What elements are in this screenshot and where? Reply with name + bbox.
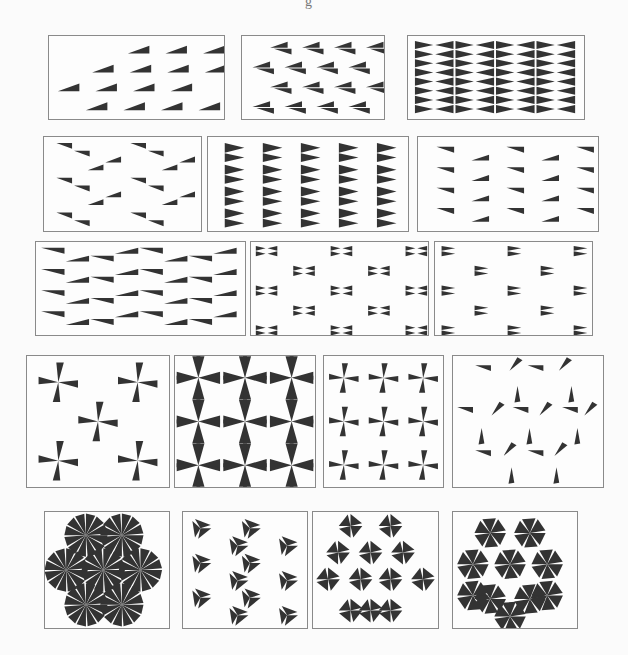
triangle-motif [435,87,453,95]
triangle-motif [284,62,302,68]
pattern-canvas [44,137,201,231]
triangle-motif [92,422,99,442]
pattern-panel-pinwheel-mirror-dense [174,355,316,488]
triangle-motif [189,256,212,262]
triangle-motif [164,256,187,262]
triangle-motif [105,191,121,197]
triangle-motif [361,567,372,579]
triangle-motif [508,246,522,251]
pattern-panel-pinwheel-grid [323,355,444,488]
triangle-motif [328,567,339,579]
triangle-motif [248,563,261,574]
triangle-motif [475,271,489,276]
triangle-motif [476,87,494,95]
triangle-motif [301,143,321,153]
triangle-motif [442,331,456,335]
triangle-motif [541,311,555,316]
triangle-motif [293,305,303,310]
triangle-motif [492,402,505,419]
triangle-motif [118,377,138,384]
triangle-motif [476,78,494,86]
triangle-motif [516,87,534,95]
triangle-motif [256,251,266,256]
triangle-motif [342,251,352,256]
triangle-motif [382,363,388,378]
pattern-canvas [27,356,169,487]
triangle-motif [256,246,266,251]
triangle-motif [164,298,187,304]
triangle-motif [475,450,491,456]
triangle-motif [442,286,456,291]
triangle-motif [506,467,515,484]
triangle-motif [301,208,321,218]
triangle-motif [435,96,453,104]
triangle-motif [541,266,555,271]
triangle-motif [366,81,384,87]
triangle-motif [41,269,64,275]
triangle-motif [574,291,588,296]
triangle-motif [115,311,138,317]
triangle-motif [417,286,427,291]
triangle-motif [419,378,425,393]
triangle-motif [496,50,514,58]
triangle-motif [369,461,384,467]
triangle-motif [415,96,433,104]
triangle-motif [415,68,433,76]
triangle-motif [130,65,151,73]
triangle-motif [90,298,113,304]
triangle-motif [198,563,211,574]
triangle-motif [411,568,423,579]
triangle-motif [301,153,321,162]
triangle-motif [301,197,321,206]
triangle-motif [423,579,435,590]
triangle-motif [369,374,384,380]
triangle-motif [351,526,363,537]
triangle-motif [348,101,366,107]
triangle-motif [128,46,149,54]
triangle-motif [368,266,378,271]
triangle-motif [342,286,352,291]
triangle-motif [132,382,139,402]
triangle-motif [285,546,298,557]
triangle-motif [340,465,346,480]
triangle-motif [285,580,298,591]
triangle-motif [225,175,245,184]
triangle-motif [58,459,78,466]
triangle-motif [115,269,138,275]
triangle-motif [415,78,433,86]
triangle-motif [476,50,494,58]
triangle-motif [305,305,315,310]
triangle-motif [423,463,438,469]
triangle-motif [58,380,78,387]
triangle-motif [435,78,453,86]
triangle-motif [516,78,534,86]
triangle-motif [435,41,453,49]
triangle-motif [263,175,283,184]
triangle-motif [148,186,164,192]
triangle-motif [138,380,158,387]
pattern-canvas [313,512,438,628]
triangle-motif [225,197,245,206]
triangle-motif [368,305,378,310]
pattern-canvas [36,242,245,335]
triangle-motif [334,81,352,87]
triangle-motif [164,319,187,325]
triangle-motif [423,376,438,382]
triangle-motif [252,62,270,68]
triangle-motif [406,286,416,291]
pattern-panel-wedge-alternating [417,136,599,232]
triangle-motif [417,325,427,330]
triangle-motif [557,59,575,67]
triangle-motif [41,290,64,296]
triangle-motif [53,382,60,402]
triangle-motif [316,568,328,579]
triangle-motif [268,246,278,251]
triangle-motif [256,325,266,330]
triangle-motif [342,246,352,251]
triangle-motif [316,101,334,107]
triangle-motif [179,157,195,163]
triangle-motif [390,599,401,611]
triangle-motif [537,96,555,104]
triangle-motif [379,579,390,591]
triangle-motif [39,455,59,462]
